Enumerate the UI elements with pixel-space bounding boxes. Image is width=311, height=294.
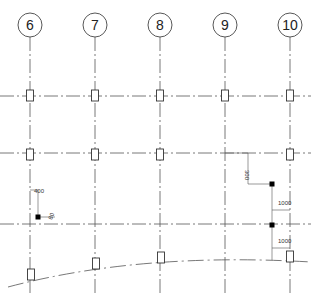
grid-line-9: 9 <box>213 13 237 294</box>
column[interactable] <box>27 149 34 160</box>
dim-400[interactable]: 400 <box>34 188 45 194</box>
column[interactable] <box>93 258 100 269</box>
column[interactable] <box>287 149 294 160</box>
grid-bubble-label: 9 <box>221 17 229 33</box>
floor-plan-canvas: 6789104008030010001000 <box>0 0 311 294</box>
grid-bubble-label: 8 <box>156 17 164 33</box>
selection-marker[interactable] <box>270 182 275 187</box>
dimension-annotations: 4008030010001000 <box>30 153 292 260</box>
column[interactable] <box>157 149 164 160</box>
curved-grid-line <box>8 260 311 287</box>
column[interactable] <box>28 269 35 280</box>
grid-bubble-label: 7 <box>91 17 99 33</box>
dim-80[interactable]: 80 <box>47 211 55 220</box>
column[interactable] <box>92 149 99 160</box>
selection-marker[interactable] <box>36 215 41 220</box>
column[interactable] <box>27 90 34 101</box>
floor-plan-drawing: 6789104008030010001000 <box>0 0 311 294</box>
column[interactable] <box>287 90 294 101</box>
dim-1000-b[interactable]: 1000 <box>278 238 292 244</box>
column[interactable] <box>92 90 99 101</box>
selection-marker[interactable] <box>270 223 275 228</box>
column[interactable] <box>158 252 165 263</box>
column[interactable] <box>287 251 294 262</box>
dim-1000-a[interactable]: 1000 <box>278 200 292 206</box>
dim-300[interactable]: 300 <box>244 170 250 181</box>
grid-bubble-label: 6 <box>26 17 34 33</box>
grid-bubble-label: 10 <box>282 17 298 33</box>
column[interactable] <box>157 90 164 101</box>
column[interactable] <box>222 90 229 101</box>
